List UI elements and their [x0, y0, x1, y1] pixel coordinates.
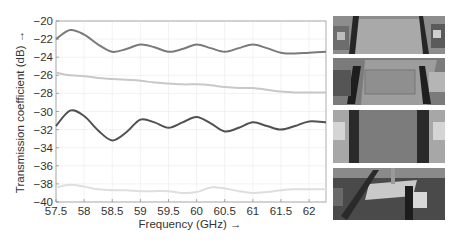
series-line-4	[56, 185, 326, 193]
setup-photo-4	[333, 168, 445, 220]
y-tick-label: −34	[33, 142, 53, 154]
x-tick-label: 62	[303, 205, 316, 217]
y-tick-label: −36	[33, 160, 53, 172]
series-line-1	[56, 30, 326, 54]
x-tick-label: 61.5	[270, 205, 292, 217]
y-tick-label: −38	[33, 178, 53, 190]
y-tick-label: −32	[33, 124, 53, 136]
x-tick-label: 60.5	[214, 205, 236, 217]
y-tick-label: −30	[33, 106, 53, 118]
x-tick-label: 59	[134, 205, 147, 217]
x-tick-label: 59.5	[157, 205, 179, 217]
x-axis-label: Frequency (GHz) →	[139, 218, 242, 230]
x-tick-label: 58.5	[101, 205, 123, 217]
x-tick-label: 61	[246, 205, 259, 217]
x-tick-label: 58	[78, 205, 91, 217]
transmission-chart: −20−22−24−26−28−30−32−34−36−38−40 57.558…	[0, 0, 330, 244]
y-tick-label: −28	[33, 87, 53, 99]
series-line-3	[56, 110, 326, 140]
y-tick-label: −20	[33, 15, 53, 27]
y-axis-ticks: −20−22−24−26−28−30−32−34−36−38−40	[33, 15, 59, 208]
y-tick-label: −26	[33, 69, 53, 81]
setup-photo-2	[333, 58, 445, 105]
y-tick-label: −22	[33, 33, 53, 45]
x-tick-label: 57.5	[45, 205, 67, 217]
setup-photo-3	[333, 110, 445, 163]
x-tick-label: 60	[190, 205, 203, 217]
grid-lines	[56, 21, 326, 202]
setup-photo-1	[333, 16, 445, 54]
y-axis-label: Transmission coefficient (dB) →	[14, 31, 26, 193]
y-tick-label: −24	[33, 51, 53, 63]
